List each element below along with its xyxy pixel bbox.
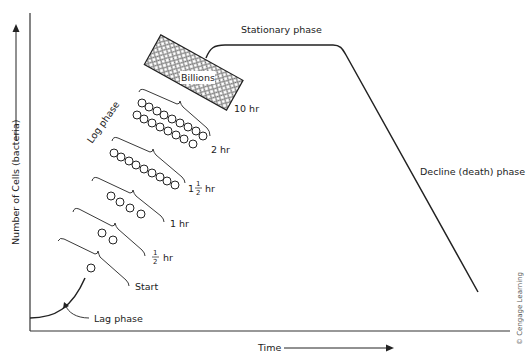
time-label-start: Start [135, 281, 158, 292]
x-axis-label: Time [257, 342, 281, 353]
lag-pointer-arrow-icon [66, 306, 89, 318]
growth-curve-diagram: Number of Cells (bacteria) Time Lag phas… [0, 0, 531, 364]
billions-label: Billions [181, 72, 215, 83]
brace-one-hour [92, 177, 164, 222]
x-axis-arrow-icon [284, 345, 394, 352]
lag-phase-curve [30, 278, 85, 318]
brace-start [58, 238, 129, 286]
time-label-two-hour: 2 hr [211, 144, 230, 155]
y-axis-label: Number of Cells (bacteria) [10, 119, 21, 245]
cells-two-hour [133, 99, 207, 148]
svg-text:1: 1 [153, 249, 157, 257]
time-label-one-and-half-hour: 1 1 2 hr [188, 180, 215, 197]
time-label-half-hour: 1 2 hr [152, 249, 173, 266]
svg-text:2: 2 [153, 258, 157, 266]
svg-text:2: 2 [196, 189, 200, 197]
svg-text:1: 1 [188, 183, 194, 194]
lag-phase-label: Lag phase [94, 313, 143, 324]
log-phase-label: Log phase [85, 99, 122, 145]
stationary-phase-label: Stationary phase [241, 24, 322, 35]
time-label-one-hour: 1 hr [170, 218, 189, 229]
svg-text:hr: hr [205, 183, 215, 194]
cells-one-and-half-hour [110, 149, 179, 189]
decline-phase-label: Decline (death) phase [420, 166, 525, 177]
svg-text:hr: hr [163, 252, 173, 263]
cells-start [87, 264, 95, 272]
time-label-ten-hour: 10 hr [234, 103, 259, 114]
brace-half-hour [58, 238, 96, 251]
svg-text:1: 1 [196, 180, 200, 188]
cells-half-hour [98, 229, 117, 244]
copyright-credit: © Cengage Learning [516, 272, 524, 345]
cells-one-hour [107, 192, 145, 218]
